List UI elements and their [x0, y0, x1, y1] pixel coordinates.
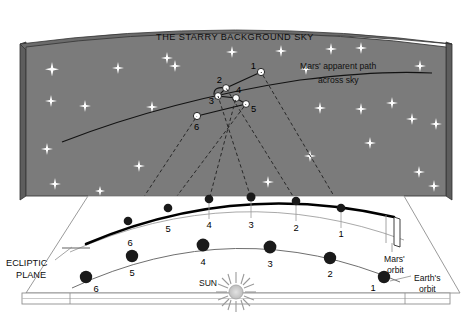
sky-dot-2	[223, 85, 230, 92]
sky-dot-label-2: 2	[217, 74, 222, 85]
sky-dot-label-5: 5	[251, 103, 256, 114]
earth-dot-label-5: 5	[129, 267, 134, 278]
ecliptic-label-line2: PLANE	[16, 270, 46, 280]
apparent-path-label-line2: across sky	[318, 75, 359, 85]
sky-title: THE STARRY BACKGROUND SKY	[156, 32, 314, 42]
sky-panel-right-edge	[446, 42, 452, 200]
sky-dot-label-4: 4	[236, 84, 241, 95]
earth-dot-label-3: 3	[267, 258, 272, 269]
starry-sky-panel: THE STARRY BACKGROUND SKY 1 2 3 4 5 6 Ma…	[20, 30, 452, 200]
mars-orbit-label-line2: orbit	[387, 265, 404, 275]
ecliptic-label-line1: ECLIPTIC	[6, 258, 48, 268]
earth-dot-3	[264, 241, 277, 254]
earth-dot-label-6: 6	[93, 283, 98, 294]
mars-dot-2	[292, 197, 301, 206]
earth-dot-4	[197, 239, 210, 252]
earth-dot-2	[324, 252, 336, 264]
mars-orbit-end-face	[394, 217, 400, 247]
earth-dot-label-2: 2	[327, 268, 332, 279]
sky-panel-left-edge	[20, 42, 26, 200]
mars-dot-label-1: 1	[338, 228, 343, 239]
mars-dot-label-3: 3	[248, 219, 253, 230]
mars-dot-6	[124, 217, 133, 226]
mars-dot-label-4: 4	[206, 219, 211, 230]
mars-dot-1	[337, 204, 346, 213]
mars-dot-label-5: 5	[165, 223, 170, 234]
mars-dot-label-2: 2	[293, 222, 298, 233]
earth-dot-5	[126, 250, 138, 262]
earth-dot-6	[80, 271, 92, 283]
mars-dot-5	[164, 204, 173, 213]
sky-panel-face	[26, 33, 446, 196]
apparent-path-label-line1: Mars' apparent path	[300, 61, 376, 71]
retrograde-motion-diagram: THE STARRY BACKGROUND SKY 1 2 3 4 5 6 Ma…	[0, 0, 471, 327]
diagram-canvas: THE STARRY BACKGROUND SKY 1 2 3 4 5 6 Ma…	[0, 0, 471, 327]
sun-symbol	[216, 272, 256, 312]
sun-disc	[229, 285, 243, 299]
earth-dot-label-4: 4	[200, 256, 205, 267]
earth-orbit-label-line2: orbit	[419, 284, 436, 294]
sky-dot-label-6: 6	[194, 121, 199, 132]
mars-dot-3	[247, 193, 256, 202]
earth-dot-label-1: 1	[370, 282, 375, 293]
mars-dot-4	[205, 195, 214, 204]
earth-orbit-label-line1: Earth's	[414, 273, 440, 283]
sky-dot-label-1: 1	[251, 60, 256, 71]
mars-dot-label-6: 6	[127, 237, 132, 248]
sun-label: SUN	[199, 278, 217, 288]
sky-dot-label-3: 3	[209, 95, 214, 106]
mars-orbit-label-line1: Mars'	[384, 254, 405, 264]
